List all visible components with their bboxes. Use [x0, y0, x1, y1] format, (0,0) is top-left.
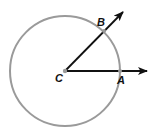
label-c: C	[55, 72, 64, 84]
point-b	[102, 29, 106, 33]
point-c	[63, 69, 67, 73]
circle-rays-diagram: C A B	[0, 0, 159, 139]
point-a	[118, 69, 122, 73]
ray-cb	[65, 12, 123, 71]
label-b: B	[97, 16, 105, 28]
label-a: A	[116, 74, 125, 86]
